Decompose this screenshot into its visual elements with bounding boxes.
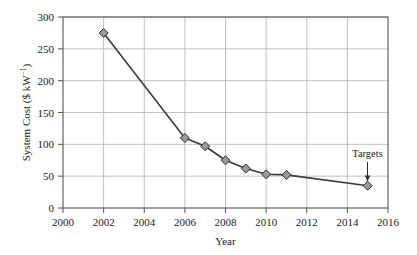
- targets-annotation-label: Targets: [352, 148, 383, 159]
- y-axis-title-tail: ): [20, 63, 33, 67]
- y-axis-title-main: System Cost ($ kW: [20, 75, 33, 161]
- ytick-label-50: 50: [43, 170, 55, 182]
- y-axis-title-superscript: −1: [19, 67, 28, 75]
- x-axis-title: Year: [215, 235, 236, 247]
- xtick-label-2014: 2014: [336, 216, 359, 228]
- svg-text:System Cost ($ kW−1): System Cost ($ kW−1): [19, 63, 33, 161]
- ytick-label-300: 300: [38, 11, 55, 23]
- xtick-label-2010: 2010: [255, 216, 278, 228]
- xtick-label-2000: 2000: [52, 216, 75, 228]
- xtick-label-2008: 2008: [215, 216, 238, 228]
- ytick-label-0: 0: [49, 202, 55, 214]
- system-cost-line-chart: 300 250 200 150 100 50 0 2000 2002 2004 …: [0, 0, 417, 255]
- ytick-label-250: 250: [38, 43, 55, 55]
- xtick-label-2002: 2002: [93, 216, 115, 228]
- ytick-label-100: 100: [38, 138, 55, 150]
- x-tick-labels: 2000 2002 2004 2006 2008 2010 2012 2014 …: [52, 216, 400, 228]
- chart-figure: 300 250 200 150 100 50 0 2000 2002 2004 …: [0, 0, 417, 255]
- xtick-label-2006: 2006: [174, 216, 197, 228]
- xtick-label-2004: 2004: [133, 216, 156, 228]
- xtick-label-2012: 2012: [296, 216, 318, 228]
- y-axis-title: System Cost ($ kW−1): [19, 63, 33, 161]
- xtick-label-2016: 2016: [377, 216, 400, 228]
- ytick-label-200: 200: [38, 75, 55, 87]
- ytick-label-150: 150: [38, 107, 55, 119]
